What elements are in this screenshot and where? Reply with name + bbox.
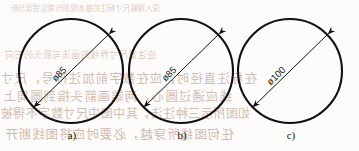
figure-row: ø85 a) [0, 0, 359, 151]
diameter-label: ø85 [49, 64, 68, 83]
circle-drawing-a: ø85 [16, 16, 128, 128]
diameter-dimension-line [252, 34, 327, 107]
diameter-dimension-line [143, 34, 218, 107]
figure-item-a: ø85 a) [16, 16, 131, 151]
figure-caption-a: a) [16, 129, 128, 141]
circle-drawing-b: ø85 [126, 16, 238, 128]
diameter-label: ø85 [159, 64, 178, 83]
figure-caption-c: c) [235, 129, 347, 141]
circle-drawing-c: ø100 [235, 16, 347, 128]
diameter-label: ø100 [264, 64, 287, 87]
drawing-canvas-b: ø85 [126, 16, 238, 128]
figure-item-b: ø85 b) [126, 16, 241, 151]
drawing-canvas-a: ø85 [16, 16, 128, 128]
drawing-canvas-c: ø100 [235, 16, 347, 128]
diameter-dimension-line [33, 34, 108, 107]
figure-caption-b: b) [126, 129, 238, 141]
figure-page: 深入理解尺寸标注的基本规则与常见错误分析 应注意尺寸界线的画法与箭头的方向 在标… [0, 0, 359, 151]
figure-item-c: ø100 c) [235, 16, 350, 151]
